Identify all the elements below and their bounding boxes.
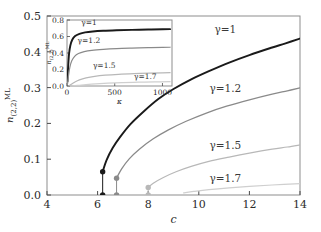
inset-y-tick-label: 0.6 bbox=[52, 32, 64, 41]
y-axis-title-sup: ML bbox=[4, 88, 12, 100]
y-tick-label: 0.1 bbox=[24, 153, 42, 166]
inset-y-tick-label: 0.4 bbox=[52, 49, 64, 58]
chart-canvas: 4681012140.00.10.20.30.40.5cn(2,2)MLγ=1γ… bbox=[0, 0, 321, 232]
inset-curve-label-gamma=1.2: γ=1.2 bbox=[78, 36, 101, 45]
x-tick-label: 10 bbox=[192, 198, 206, 211]
inset-x-axis-title: κ bbox=[116, 97, 122, 106]
inset-y-tick-label: 0.8 bbox=[52, 16, 64, 25]
onset-marker-upper bbox=[146, 185, 151, 190]
curve-label-gamma=1.7: γ=1.7 bbox=[209, 172, 241, 184]
inset-y-axis-title-sub: (2,2) bbox=[49, 49, 54, 60]
inset-curve-label-gamma=1.7: γ=1.7 bbox=[134, 72, 157, 81]
inset-y-tick-label: 0.0 bbox=[52, 82, 64, 91]
curve-label-gamma=1: γ=1 bbox=[214, 23, 236, 35]
onset-marker-upper bbox=[114, 175, 119, 180]
onset-marker-upper bbox=[100, 169, 105, 174]
x-tick-label: 4 bbox=[44, 198, 51, 211]
y-tick-label: 0.0 bbox=[24, 189, 42, 202]
y-tick-label: 0.3 bbox=[24, 82, 42, 95]
figure-root: 4681012140.00.10.20.30.40.5cn(2,2)MLγ=1γ… bbox=[0, 0, 321, 232]
inset-curve-label-gamma=1: γ=1 bbox=[81, 18, 97, 27]
onset-marker-lower bbox=[114, 192, 119, 197]
x-tick-label: 8 bbox=[145, 198, 152, 211]
curve-label-gamma=1.2: γ=1.2 bbox=[209, 82, 241, 94]
y-axis-title-sub: (2,2) bbox=[10, 100, 18, 117]
y-axis-title: n(2,2)ML bbox=[4, 88, 18, 123]
inset-y-axis-title-sup: ML bbox=[45, 42, 50, 50]
inset-y-tick-label: 0.2 bbox=[52, 65, 64, 74]
x-axis-title: c bbox=[170, 213, 176, 226]
inset-x-tick-label: 1000 bbox=[153, 88, 172, 97]
x-tick-label: 6 bbox=[94, 198, 101, 211]
y-tick-label: 0.5 bbox=[24, 10, 42, 23]
x-tick-label: 12 bbox=[242, 198, 256, 211]
onset-marker-lower bbox=[146, 192, 151, 197]
curve-label-gamma=1.5: γ=1.5 bbox=[209, 139, 241, 151]
onset-marker-lower bbox=[100, 192, 105, 197]
x-tick-label: 14 bbox=[293, 198, 307, 211]
y-tick-label: 0.4 bbox=[24, 46, 42, 59]
inset-x-tick-label: 500 bbox=[108, 88, 123, 97]
y-tick-label: 0.2 bbox=[24, 117, 42, 130]
inset-curve-label-gamma=1.5: γ=1.5 bbox=[93, 61, 116, 70]
inset-x-tick-label: 0 bbox=[65, 88, 70, 97]
